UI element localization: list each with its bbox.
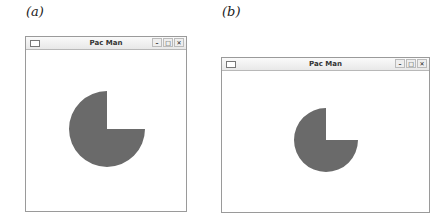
minimize-button[interactable]: – xyxy=(152,38,162,47)
maximize-button[interactable]: □ xyxy=(406,59,416,68)
pacman-window-b: Pac Man – □ ✕ xyxy=(221,57,430,213)
pacman-icon xyxy=(68,90,146,168)
title-bar[interactable]: Pac Man – □ ✕ xyxy=(222,58,429,71)
pacman-icon xyxy=(293,107,359,173)
maximize-button[interactable]: □ xyxy=(163,38,173,47)
panel-label-a: (a) xyxy=(26,4,44,19)
close-button[interactable]: ✕ xyxy=(174,38,184,47)
minimize-button[interactable]: – xyxy=(395,59,405,68)
close-button[interactable]: ✕ xyxy=(417,59,427,68)
canvas-area xyxy=(26,50,186,211)
title-bar[interactable]: Pac Man – □ ✕ xyxy=(26,37,186,50)
canvas-area xyxy=(222,71,429,212)
pacman-window-a: Pac Man – □ ✕ xyxy=(25,36,187,212)
panel-label-b: (b) xyxy=(222,4,240,19)
